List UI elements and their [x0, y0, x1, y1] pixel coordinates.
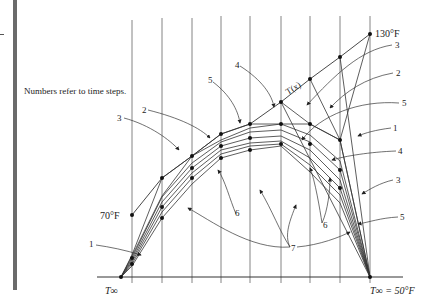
label-70F: 70°F — [100, 210, 120, 221]
step-label: 5 — [400, 212, 405, 222]
step-label: 3 — [395, 40, 400, 50]
step-label: 2 — [142, 105, 147, 115]
time-step-profiles — [121, 34, 370, 277]
step-label: 7 — [291, 243, 296, 253]
step-label: 2 — [396, 68, 401, 78]
temperature-diagram: 130°F 70°F T(x) T∞ T∞ = 50°F 3 2 5 1 4 3… — [0, 0, 437, 306]
step-label: 4 — [398, 146, 403, 156]
step-label: 3 — [396, 175, 401, 185]
label-curve: T(x) — [284, 80, 303, 97]
step-label: 1 — [393, 123, 398, 133]
step-label: 6 — [323, 220, 328, 230]
step-label: 1 — [89, 239, 94, 249]
step-label: 6 — [235, 208, 240, 218]
label-t-inf-left: T∞ — [105, 285, 118, 296]
label-t-inf-right: T∞ = 50°F — [370, 285, 415, 296]
step-label: 5 — [402, 98, 407, 108]
step-label: 4 — [235, 60, 240, 70]
label-130F: 130°F — [375, 28, 400, 39]
step-label: 3 — [117, 113, 122, 123]
step-label: 5 — [208, 75, 213, 85]
